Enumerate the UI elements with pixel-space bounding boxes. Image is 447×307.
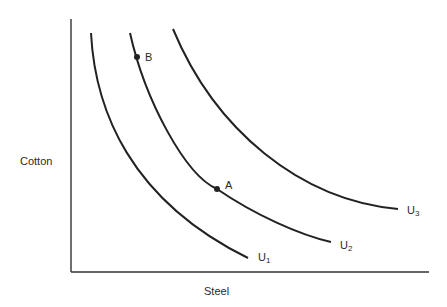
curve-u2 bbox=[130, 33, 331, 242]
y-axis-label: Cotton bbox=[20, 155, 52, 167]
point-b-marker bbox=[134, 54, 140, 60]
curve-u3-label-sub: 3 bbox=[415, 209, 419, 218]
x-axis-label: Steel bbox=[204, 285, 229, 297]
curve-u1-label: U1 bbox=[258, 251, 270, 265]
indifference-curve-chart bbox=[0, 0, 447, 307]
curve-u1 bbox=[91, 33, 248, 258]
curve-u2-label-sub: 2 bbox=[348, 244, 352, 253]
point-a-marker bbox=[214, 186, 220, 192]
point-a-label: A bbox=[225, 179, 232, 191]
curve-u2-label-main: U bbox=[340, 239, 348, 251]
curve-u3-label-main: U bbox=[407, 204, 415, 216]
curve-u1-label-sub: 1 bbox=[266, 256, 270, 265]
curve-u2-label: U2 bbox=[340, 239, 352, 253]
curve-u1-label-main: U bbox=[258, 251, 266, 263]
point-b-label: B bbox=[145, 51, 152, 63]
curve-u3-label: U3 bbox=[407, 204, 419, 218]
